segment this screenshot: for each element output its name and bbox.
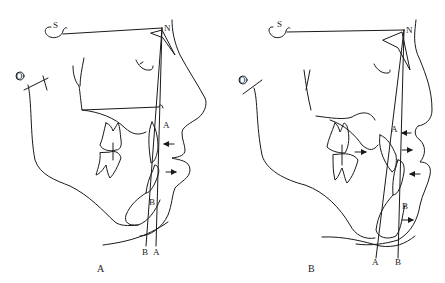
lower-molar	[96, 151, 121, 178]
lower-incisor	[146, 165, 159, 193]
label-o: O	[239, 75, 246, 85]
label-point-a: A	[391, 124, 398, 134]
lower-incisor	[393, 160, 404, 195]
panel-b: S N O A B A B B	[239, 19, 432, 274]
line-label-b: B	[142, 247, 148, 257]
pterygoid-plate	[73, 66, 163, 110]
orbit	[136, 60, 153, 70]
lower-molar	[333, 154, 358, 183]
mandible-border	[28, 85, 138, 226]
line-label-b: B	[395, 257, 401, 267]
orbit	[374, 64, 390, 73]
maxilla	[316, 113, 375, 120]
label-point-b: B	[402, 201, 408, 211]
nasal-bone	[383, 32, 410, 70]
line-label-a: A	[372, 257, 379, 267]
line-label-a: A	[153, 247, 160, 257]
label-n: N	[164, 23, 171, 33]
label-o: O	[16, 71, 23, 81]
symphysis	[376, 195, 405, 238]
panel-a: S N O A B	[16, 20, 206, 274]
label-s: S	[277, 19, 282, 29]
upper-molar	[100, 123, 121, 151]
panel-caption-a: A	[97, 263, 105, 274]
na-line	[376, 30, 404, 258]
sn-line	[63, 28, 162, 34]
label-point-a: A	[163, 120, 170, 130]
label-n: N	[406, 25, 413, 35]
pterygoid-plate	[304, 70, 311, 110]
label-s: S	[53, 20, 58, 30]
panel-caption-b: B	[308, 263, 315, 274]
label-point-b: B	[149, 197, 155, 207]
upper-incisor	[380, 135, 397, 172]
sn-line	[287, 30, 404, 32]
cephalometric-figure: S N O A B	[0, 0, 445, 283]
nasal-bone	[151, 30, 175, 55]
